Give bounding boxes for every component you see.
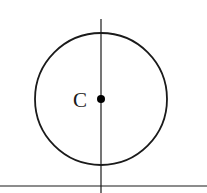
center-point <box>97 95 105 103</box>
diagram-canvas: C <box>0 0 207 193</box>
center-label: C <box>73 88 87 112</box>
